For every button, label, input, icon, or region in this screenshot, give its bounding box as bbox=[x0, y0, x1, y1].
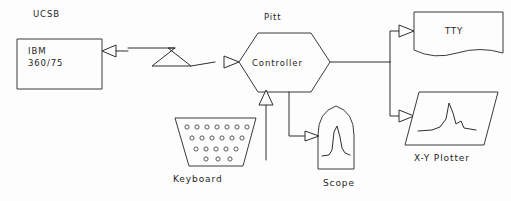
mainframe-line1: IBM bbox=[28, 46, 46, 56]
arrowhead-to-tty bbox=[399, 25, 414, 37]
controller-outer-label: Pitt bbox=[264, 12, 282, 22]
node-controller[interactable]: Pitt Controller bbox=[239, 12, 330, 92]
plotter-label: X-Y Plotter bbox=[414, 153, 470, 163]
scope-label: Scope bbox=[323, 178, 355, 188]
bus-branch-tty bbox=[390, 31, 399, 62]
arrowhead-to-controller bbox=[224, 56, 239, 68]
arrowhead-to-scope bbox=[305, 131, 319, 141]
lightning-bolt bbox=[128, 48, 191, 66]
node-mainframe[interactable]: UCSB IBM 360/75 bbox=[17, 9, 102, 89]
scope-body[interactable] bbox=[318, 106, 354, 169]
connector-keyboard-controller bbox=[259, 90, 273, 160]
link-segment-right bbox=[191, 62, 215, 66]
scope-line bbox=[289, 92, 305, 136]
tty-label: TTY bbox=[444, 26, 463, 36]
keyboard-label: Keyboard bbox=[173, 174, 223, 184]
node-keyboard[interactable]: Keyboard bbox=[173, 118, 256, 184]
plotter-body[interactable] bbox=[405, 92, 498, 145]
connector-mainframe-controller bbox=[102, 45, 239, 68]
mainframe-outer-label: UCSB bbox=[33, 9, 60, 19]
node-plotter[interactable]: X-Y Plotter bbox=[405, 92, 498, 163]
node-scope[interactable]: Scope bbox=[318, 106, 355, 188]
controller-label: Controller bbox=[252, 58, 303, 68]
block-diagram: UCSB IBM 360/75 Pitt Controller bbox=[0, 0, 511, 201]
bus-branch-plotter bbox=[390, 62, 399, 116]
node-tty[interactable]: TTY bbox=[414, 12, 503, 56]
arrowhead-to-mainframe bbox=[102, 45, 116, 57]
connector-output-bus bbox=[330, 25, 414, 122]
mainframe-line2: 360/75 bbox=[28, 58, 63, 68]
diagram-canvas: UCSB IBM 360/75 Pitt Controller bbox=[0, 0, 511, 201]
connector-controller-scope bbox=[289, 92, 319, 141]
